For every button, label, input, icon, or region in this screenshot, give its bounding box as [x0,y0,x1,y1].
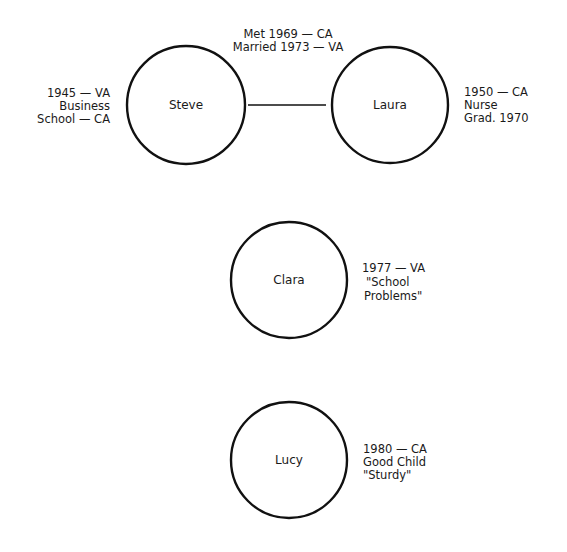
relationship-note-met: Met 1969 — CA [243,27,332,41]
person-note-steve-education-location: School — CA [37,112,110,126]
person-note-laura-occupation: Nurse [464,98,498,112]
person-note-laura-birth: 1950 — CA [464,85,528,99]
person-note-clara-2: Problems" [364,289,422,303]
person-name-laura: Laura [373,98,407,112]
person-note-steve-education: Business [59,99,110,113]
person-name-clara: Clara [273,273,304,287]
person-laura: Laura 1950 — CA Nurse Grad. 1970 [332,47,529,163]
person-note-steve-birth: 1945 — VA [47,86,110,100]
person-note-laura-graduation: Grad. 1970 [464,111,529,125]
person-note-lucy-1: Good Child [363,455,426,469]
person-note-lucy-2: "Sturdy" [363,468,411,482]
person-note-clara-1: "School [366,275,409,289]
relationship-note-married: Married 1973 — VA [233,40,344,54]
person-lucy: Lucy 1980 — CA Good Child "Sturdy" [231,402,427,518]
person-note-lucy-birth: 1980 — CA [363,442,427,456]
person-name-lucy: Lucy [275,453,303,467]
person-note-clara-birth: 1977 — VA [362,261,425,275]
person-clara: Clara 1977 — VA "School Problems" [231,222,425,338]
person-steve: Steve 1945 — VA Business School — CA [37,46,245,164]
person-name-steve: Steve [169,98,203,112]
genogram-diagram: Met 1969 — CA Married 1973 — VA Steve 19… [0,0,567,552]
